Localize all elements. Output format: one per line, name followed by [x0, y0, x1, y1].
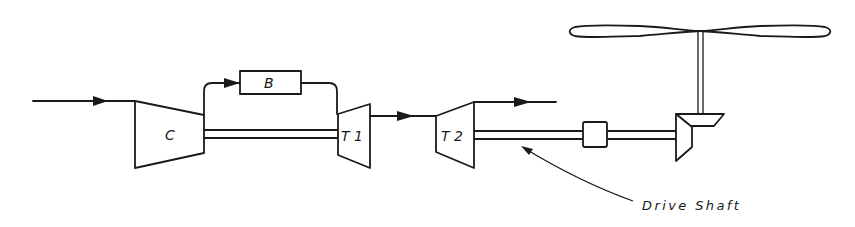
rotor	[570, 25, 831, 37]
rotor-mast	[698, 32, 703, 114]
bevel-gearbox	[676, 114, 724, 161]
inlet-arrow-icon	[93, 96, 108, 106]
turbine-1: T 1	[338, 104, 370, 168]
burner-inlet-arrow-icon	[224, 78, 240, 88]
compressor-label: C	[165, 127, 175, 143]
leader-line	[524, 148, 633, 201]
rotor-blade-left	[570, 25, 700, 37]
leader-arrow-icon	[521, 146, 533, 155]
turboshaft-diagram: C B T 1 T 2	[0, 0, 855, 227]
compressor-to-burner-duct	[204, 78, 240, 115]
inlet-flow	[33, 96, 135, 106]
core-shaft	[204, 130, 338, 138]
exhaust-flow	[474, 97, 556, 107]
compressor: C	[135, 101, 204, 168]
drive-shaft-label: Drive Shaft	[642, 198, 741, 213]
exhaust-arrow-icon	[514, 97, 531, 107]
rotor-blade-right	[700, 25, 830, 37]
interturbine-arrow-icon	[397, 111, 414, 121]
drive-shaft-annotation: Drive Shaft	[521, 146, 741, 213]
drive-shaft	[474, 131, 676, 139]
coupling	[583, 122, 607, 147]
turbine-2-label: T 2	[441, 128, 463, 144]
turbine-1-label: T 1	[341, 128, 363, 144]
interturbine-flow	[370, 111, 436, 121]
burner-label: B	[264, 75, 274, 91]
burner: B	[240, 71, 301, 94]
turbine-2: T 2	[436, 102, 474, 168]
burner-to-turbine1-duct	[301, 83, 337, 114]
